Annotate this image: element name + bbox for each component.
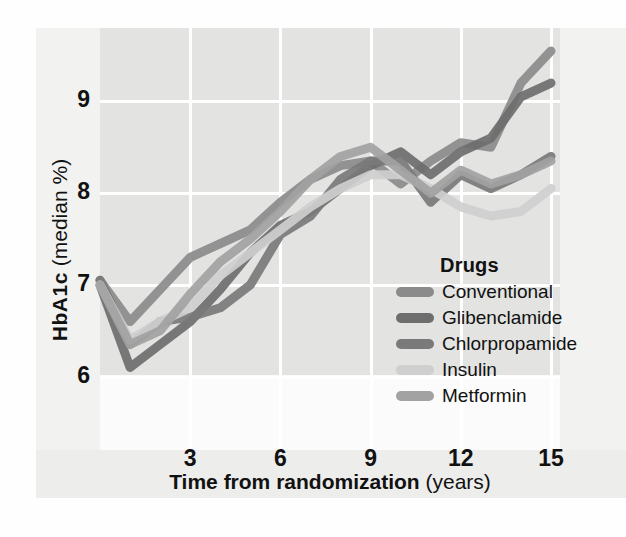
x-tick-label: 9 <box>351 445 391 472</box>
y-axis-label-bold: HbA1c <box>48 272 71 341</box>
legend-item: Glibenclamide <box>396 305 576 331</box>
legend-item: Conventional <box>396 279 576 305</box>
x-axis-label-unit: (years) <box>425 470 490 493</box>
x-axis-label: Time from randomization (years) <box>100 470 560 494</box>
x-tick-label: 3 <box>170 445 210 472</box>
chart-figure: 6789 3691215 HbA1c (median %) Time from … <box>0 0 626 537</box>
legend-item-label: Glibenclamide <box>442 307 562 329</box>
y-axis-label: HbA1c (median %) <box>48 130 72 370</box>
legend-item-label: Insulin <box>442 359 497 381</box>
legend-swatch-icon <box>396 339 434 349</box>
x-tick-label: 12 <box>441 445 481 472</box>
legend-swatch-icon <box>396 365 434 375</box>
legend-items: ConventionalGlibenclamideChlorpropamideI… <box>396 279 576 409</box>
legend-item: Chlorpropamide <box>396 331 576 357</box>
y-axis-label-unit: (median %) <box>48 159 71 266</box>
x-axis-label-bold: Time from randomization <box>169 470 419 493</box>
legend-item: Metformin <box>396 383 576 409</box>
legend-swatch-icon <box>396 313 434 323</box>
legend: Drugs ConventionalGlibenclamideChlorprop… <box>396 254 576 409</box>
legend-title: Drugs <box>440 254 576 277</box>
legend-swatch-icon <box>396 391 434 401</box>
legend-item-label: Conventional <box>442 281 553 303</box>
y-tick-label: 9 <box>62 86 90 113</box>
legend-item-label: Chlorpropamide <box>442 333 577 355</box>
x-tick-label: 6 <box>260 445 300 472</box>
legend-item-label: Metformin <box>442 385 526 407</box>
x-tick-label: 15 <box>531 445 571 472</box>
legend-item: Insulin <box>396 357 576 383</box>
legend-swatch-icon <box>396 287 434 297</box>
